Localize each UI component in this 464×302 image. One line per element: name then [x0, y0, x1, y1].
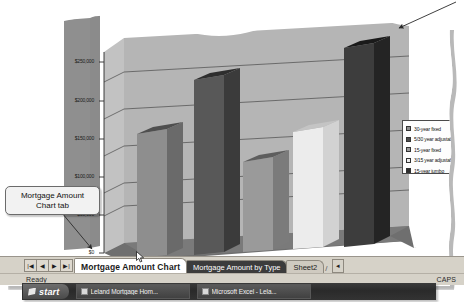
chart-bar-3-15-year-adjustable[interactable] [293, 120, 339, 249]
annotation-callout-mortgage-amount-chart-tab: Mortgage Amount Chart tab [5, 186, 100, 215]
sheet-tab-mortgage-amount-by-type[interactable]: Mortgage Amount by Type [186, 260, 287, 274]
callout-line-2: Chart tab [36, 201, 69, 210]
legend-item-15-year-jumbo[interactable]: 15-year jumbo [406, 166, 454, 174]
legend-item-15-year-fixed[interactable]: 15-year fixed [406, 145, 454, 154]
callout-text: Mortgage Amount Chart tab [21, 191, 84, 211]
legend-item-3-15-year-adjustable[interactable]: 3/15 year adjustable [406, 156, 454, 165]
chart-canvas[interactable] [4, 10, 454, 286]
callout-line-1: Mortgage Amount [21, 191, 84, 200]
excel-icon [202, 288, 209, 295]
chart-bar-15-year-jumbo[interactable] [344, 36, 390, 247]
windows-taskbar: start Leland Mortgage Hom... Microsoft E… [22, 283, 436, 300]
ytick-label-200000: $200,000 [16, 97, 94, 103]
legend-swatch-icon [406, 168, 411, 173]
last-sheet-button[interactable]: ▶| [60, 259, 73, 272]
legend-item-label: 15-year fixed [414, 147, 441, 153]
caps-lock-indicator: CAPS [437, 276, 456, 283]
taskbar-item-label: Leland Mortgage Hom... [91, 288, 159, 295]
mortgage-amount-chart[interactable]: $250,000 $200,000 $150,000 $100,000 $50,… [4, 10, 454, 286]
legend-swatch-icon [406, 158, 411, 163]
taskbar-item-leland-mortgage-home[interactable]: Leland Mortgage Hom... [76, 284, 190, 299]
ytick-label-100000: $100,000 [16, 173, 94, 179]
mouse-cursor [136, 251, 145, 263]
start-button[interactable]: start [23, 284, 69, 299]
chart-bar-30-year-fixed[interactable] [137, 122, 183, 258]
document-icon [81, 288, 88, 295]
ytick-label-0: $0 [16, 249, 94, 255]
taskbar-item-label: Microsoft Excel - Lela... [212, 288, 277, 295]
chart-bar-15-year-fixed[interactable] [243, 150, 289, 252]
legend-item-label: 5/30 year adjustable [414, 136, 454, 142]
chart-legend[interactable]: 30-year fixed 5/30 year adjustable 15-ye… [402, 120, 454, 174]
ytick-label-250000: $250,000 [16, 58, 94, 64]
legend-item-30-year-fixed[interactable]: 30-year fixed [406, 124, 454, 133]
sheet-tab-sheet2[interactable]: Sheet2 [286, 260, 324, 274]
chart-bar-5-30-year-adjustable[interactable] [194, 68, 240, 255]
start-button-label: start [39, 287, 60, 297]
top-right-pointer-arrow [399, 2, 456, 28]
excel-window-page: $250,000 $200,000 $150,000 $100,000 $50,… [4, 10, 454, 286]
legend-swatch-icon [406, 137, 411, 142]
sheet-tab-mortgage-amount-chart[interactable]: Mortgage Amount Chart [74, 258, 187, 274]
sheet-tab-bar: |◀ ◀ ▶ ▶| Mortgage Amount Chart Mortgage… [0, 256, 464, 274]
legend-item-label: 30-year fixed [414, 126, 441, 132]
windows-flag-icon [28, 288, 36, 296]
legend-item-label: 15-year jumbo [414, 168, 444, 174]
ytick-label-150000: $150,000 [16, 135, 94, 141]
legend-swatch-icon [406, 126, 411, 131]
status-message: Ready [26, 276, 47, 283]
legend-item-5-30-year-adjustable[interactable]: 5/30 year adjustable [406, 135, 454, 144]
tab-separator: / [325, 264, 327, 273]
sheet-navigation-buttons: |◀ ◀ ▶ ▶| [24, 259, 72, 272]
taskbar-item-microsoft-excel[interactable]: Microsoft Excel - Lela... [197, 284, 311, 299]
screenshot-root: $250,000 $200,000 $150,000 $100,000 $50,… [0, 0, 464, 302]
sheet-tabs: Mortgage Amount Chart Mortgage Amount by… [74, 259, 464, 274]
legend-swatch-icon [406, 147, 411, 152]
tab-scroll-left-icon[interactable]: ◂ [332, 259, 344, 273]
legend-item-label: 3/15 year adjustable [414, 157, 454, 163]
